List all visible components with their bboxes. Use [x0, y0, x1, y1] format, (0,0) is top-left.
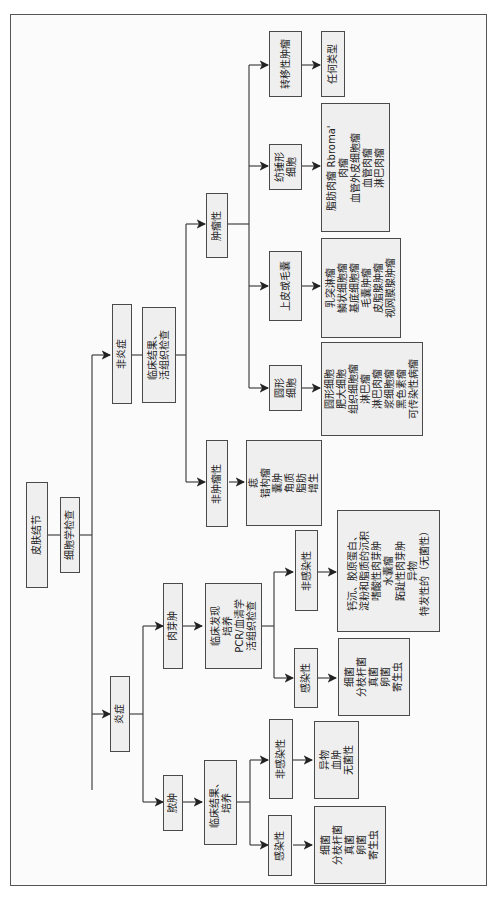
list-round-cell: 圆形细胞 肥大细胞 组织细胞瘤 淋巴瘤 淋巴肉瘤 浆细胞瘤 黑色素瘤 可传染性病…: [321, 342, 423, 436]
node-skin-nodule: 皮肤结节: [26, 482, 48, 588]
list-abscess-noninfectious: 异物 血肿 无菌性: [314, 721, 359, 799]
item-list: 脂肪肉瘤 Rbroma' 肉瘤 血管外皮细胞瘤 血管肉瘤 淋巴肉瘤: [326, 125, 386, 210]
node-inflammatory: 炎症: [110, 676, 130, 752]
node-granuloma-test: 临床发现 培养 PCR/血清学 活组织检查: [205, 583, 262, 669]
list-metastatic: 任何类型: [321, 31, 345, 97]
node-label: 细胞学检查: [64, 510, 76, 560]
node-abscess-test: 临床结果、 培养: [204, 760, 237, 845]
item-list: 任何类型: [327, 44, 339, 84]
node-metastatic: 转移性肿瘤: [269, 31, 302, 97]
node-label: 纺锤形 细胞: [274, 152, 298, 182]
node-cytology: 细胞学检查: [60, 497, 80, 573]
item-list: 细菌 分枝杆菌 真菌 卵菌 寄生虫: [344, 657, 404, 697]
node-granuloma-infectious: 感染性: [294, 648, 318, 708]
node-label: 临床结果、 活组织检查: [147, 330, 171, 380]
node-label: 临床结果、 培养: [209, 778, 233, 828]
item-list: 圆形细胞 肥大细胞 组织细胞瘤 淋巴瘤 淋巴肉瘤 浆细胞瘤 黑色素瘤 可传染性病…: [324, 359, 420, 419]
node-granuloma-noninfectious: 非感染性: [295, 530, 318, 611]
node-label: 炎症: [114, 704, 126, 724]
list-granuloma-noninfectious: 钙沉、胶原蛋白、 淀粉和脂质的沉积 嗜酸性肉芽肿 水囊瘤 跖趾性肉芽肿 异物 特…: [337, 510, 440, 632]
node-label: 圆形 细胞: [274, 378, 298, 398]
node-abscess-infectious: 感染性: [268, 815, 292, 876]
node-label: 皮肤结节: [31, 515, 43, 555]
node-granuloma: 肉芽肿: [163, 583, 183, 669]
node-label: 临床发现 培养 PCR/血清学 活组织检查: [210, 599, 258, 652]
node-nonneoplastic: 非肿瘤性: [206, 440, 228, 527]
item-list: 痣 错构瘤 囊肿 角质 脂肪 增生: [248, 468, 320, 498]
list-spindle-cell: 脂肪肉瘤 Rbroma' 肉瘤 血管外皮细胞瘤 血管肉瘤 淋巴肉瘤: [321, 103, 390, 232]
node-spindle-cell: 纺锤形 细胞: [269, 144, 302, 190]
item-list: 乳突淋瘤 鳞状细胞瘤 基底细胞瘤 毛囊肿瘤 皮脂腺肿瘤 视网膜腺肿瘤: [325, 258, 397, 318]
node-epithelial: 上皮或毛囊: [269, 251, 302, 321]
node-label: 感染性: [274, 831, 286, 861]
node-noninflammatory: 非炎症: [112, 304, 132, 404]
node-label: 非感染性: [301, 551, 313, 591]
node-label: 非炎症: [116, 339, 128, 369]
node-label: 脓肿: [167, 793, 179, 813]
node-label: 非肿瘤性: [211, 464, 223, 504]
list-epithelial: 乳突淋瘤 鳞状细胞瘤 基底细胞瘤 毛囊肿瘤 皮脂腺肿瘤 视网膜腺肿瘤: [321, 238, 401, 338]
node-label: 感染性: [300, 663, 312, 693]
node-label: 非感染性: [275, 739, 287, 779]
list-nonneoplastic: 痣 错构瘤 囊肿 角质 脂肪 增生: [246, 440, 322, 526]
node-label: 肿瘤性: [211, 211, 223, 241]
node-label: 肉芽肿: [167, 611, 179, 641]
node-label: 上皮或毛囊: [280, 261, 292, 311]
node-label: 转移性肿瘤: [280, 39, 292, 89]
node-abscess-noninfectious: 非感染性: [269, 719, 293, 799]
node-round-cell: 圆形 细胞: [269, 365, 302, 411]
list-granuloma-infectious: 细菌 分枝杆菌 真菌 卵菌 寄生虫: [338, 638, 410, 716]
list-abscess-infectious: 细菌 分枝杆菌 真菌 卵菌 寄生虫: [314, 806, 386, 884]
item-list: 细菌 分枝杆菌 真菌 卵菌 寄生虫: [320, 825, 380, 865]
node-neoplastic: 肿瘤性: [206, 193, 228, 258]
node-abscess: 脓肿: [163, 775, 183, 831]
item-list: 异物 血肿 无菌性: [319, 745, 355, 775]
item-list: 钙沉、胶原蛋白、 淀粉和脂质的沉积 嗜酸性肉芽肿 水囊瘤 跖趾性肉芽肿 异物 特…: [347, 526, 431, 616]
node-noninflammatory-test: 临床结果、 活组织检查: [142, 307, 176, 403]
